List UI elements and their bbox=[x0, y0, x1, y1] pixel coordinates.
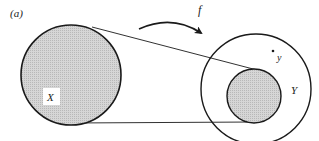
diagram-canvas: (a) f X Y y bbox=[0, 0, 319, 141]
panel-label: (a) bbox=[10, 7, 23, 20]
image-set-circle bbox=[227, 69, 281, 123]
set-x-label: X bbox=[46, 91, 55, 103]
map-label: f bbox=[198, 3, 203, 17]
set-x-circle bbox=[21, 25, 121, 125]
set-y-label: Y bbox=[291, 84, 299, 96]
point-y-label: y bbox=[276, 52, 282, 63]
point-y-dot bbox=[272, 50, 275, 53]
function-mapping-diagram: (a) f X Y y bbox=[0, 0, 319, 141]
map-arrow-icon bbox=[139, 22, 201, 33]
lower-projection-line bbox=[71, 122, 254, 123]
